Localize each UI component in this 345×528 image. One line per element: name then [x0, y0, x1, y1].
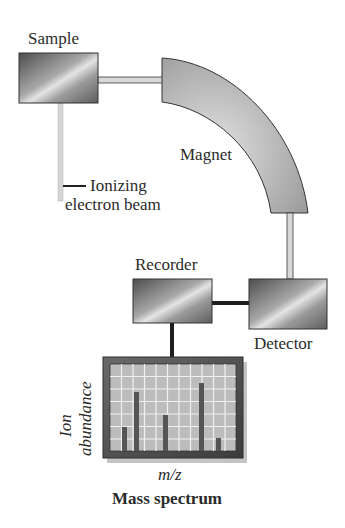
- abundance-label: abundance: [77, 381, 95, 456]
- spectrum-bar: [199, 383, 204, 451]
- ionizing-electron-beam: [58, 103, 86, 201]
- recorder-detector-cable: [212, 301, 249, 305]
- spectrum-bar: [163, 415, 168, 451]
- electron-beam-label: electron beam: [65, 196, 161, 214]
- magnet-detector-tube: [287, 213, 293, 279]
- mass-spectrum-caption: Mass spectrum: [112, 490, 222, 508]
- recorder: [133, 279, 212, 323]
- recorder-spectrum-cable: [170, 323, 174, 358]
- magnet-arc: [162, 58, 308, 213]
- sample-magnet-tube: [98, 77, 164, 83]
- recorder-label: Recorder: [135, 256, 197, 274]
- magnet-label: Magnet: [180, 146, 232, 164]
- ionizing-label: Ionizing: [90, 177, 147, 195]
- sample-label: Sample: [28, 30, 79, 48]
- mz-axis-label: m/z: [158, 466, 182, 484]
- ion-label: Ion: [57, 414, 75, 437]
- detector-label: Detector: [254, 335, 313, 353]
- sample-chamber: [19, 53, 98, 103]
- spectrum-bar: [134, 392, 139, 451]
- spectrum-bar: [216, 438, 221, 451]
- mass-spectrum-display: [103, 357, 247, 463]
- detector: [249, 279, 327, 329]
- spectrum-bar: [122, 427, 127, 451]
